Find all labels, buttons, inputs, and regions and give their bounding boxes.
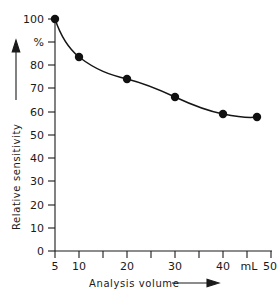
y-tick-label-0: 0 [37, 245, 44, 258]
x-tick-label-30: 30 [168, 260, 182, 273]
y-tick-label-70: 70 [30, 82, 44, 95]
data-point-20ml [123, 75, 131, 83]
y-tick-label-80: 80 [30, 59, 44, 72]
y-tick-label-20: 20 [30, 199, 44, 212]
y-tick-label-50: 50 [30, 129, 44, 142]
data-point-40ml [219, 110, 227, 118]
x-axis-unit-label: mL [241, 260, 259, 273]
data-point-10ml [75, 53, 83, 61]
data-point-5ml [51, 15, 59, 23]
y-axis-title: Relative sensitivity [11, 124, 22, 230]
chart-figure: 100 % 80 70 60 50 40 30 20 10 0 [0, 0, 279, 300]
x-tick-label-10: 10 [72, 260, 86, 273]
data-point-50ml [253, 113, 261, 121]
y-tick-label-30: 30 [30, 175, 44, 188]
y-tick-label-40: 40 [30, 152, 44, 165]
x-axis-title: Analysis volume [89, 278, 179, 289]
y-tick-label-60: 60 [30, 106, 44, 119]
y-tick-label-10: 10 [30, 222, 44, 235]
x-tick-label-50: 50 [263, 260, 277, 273]
x-tick-label-20: 20 [120, 260, 134, 273]
data-point-30ml [171, 93, 179, 101]
x-tick-label-5: 5 [52, 260, 59, 273]
relative-sensitivity-line-chart: 100 % 80 70 60 50 40 30 20 10 0 [0, 0, 279, 300]
y-tick-label-100: 100 [23, 13, 44, 26]
y-axis-unit-label: % [34, 36, 44, 49]
x-tick-label-40: 40 [216, 260, 230, 273]
